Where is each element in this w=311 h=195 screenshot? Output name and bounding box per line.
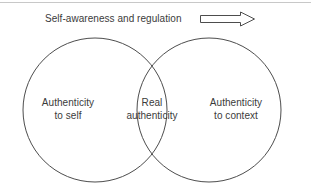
venn-label-intersection: Real authenticity — [126, 97, 177, 121]
venn-label-left-line2: to self — [54, 110, 81, 121]
diagram-canvas: Self-awareness and regulation Authentici… — [0, 0, 311, 195]
venn-label-left-line1: Authenticity — [42, 97, 94, 108]
venn-label-intersection-line1: Real — [142, 97, 163, 108]
venn-label-right-line2: to context — [214, 110, 258, 121]
venn-label-intersection-line2: authenticity — [126, 110, 177, 121]
venn-diagram-figure: Self-awareness and regulation Authentici… — [0, 0, 311, 195]
venn-label-right-line1: Authenticity — [210, 97, 262, 108]
venn-label-right: Authenticity to context — [210, 97, 262, 121]
right-block-arrow-icon — [201, 12, 255, 26]
diagram-caption: Self-awareness and regulation — [45, 13, 182, 24]
venn-label-left: Authenticity to self — [42, 97, 94, 121]
